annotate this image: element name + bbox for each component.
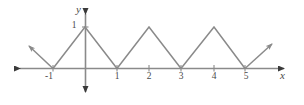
y-axis-label: y: [76, 4, 81, 15]
left-ray: [29, 46, 53, 69]
y-tick-label-1: 1: [69, 21, 79, 31]
x-axis-label: x: [280, 70, 285, 81]
x-tick-label--1: -1: [42, 72, 56, 82]
right-ray: [245, 44, 272, 69]
graph-figure: y x -1 1 2 3 4 5 1: [0, 0, 304, 105]
x-tick-label-3: 3: [174, 72, 188, 82]
x-tick-label-5: 5: [239, 72, 253, 82]
function-curve: [53, 27, 245, 69]
x-tick-label-4: 4: [207, 72, 221, 82]
x-tick-label-2: 2: [142, 72, 156, 82]
x-tick-label-1: 1: [110, 72, 124, 82]
graph-canvas: [0, 0, 304, 105]
